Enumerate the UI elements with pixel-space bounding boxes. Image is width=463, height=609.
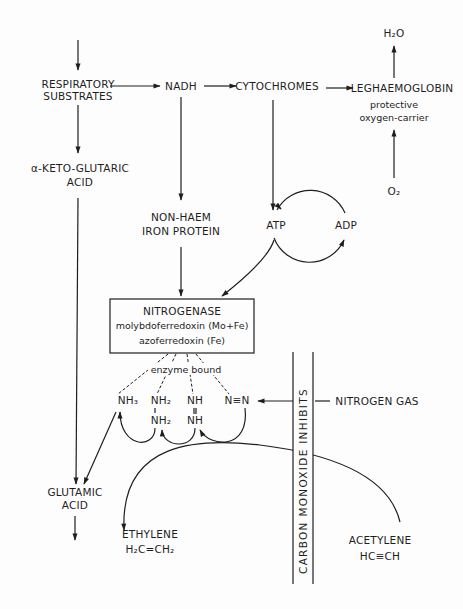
respiratory-substrates-line1: RESPIRATORY xyxy=(41,78,115,90)
nitrogen-gas-label: NITROGEN GAS xyxy=(335,395,418,407)
hydrazine-top: NH₂ xyxy=(151,394,172,406)
alpha-keto-to-glutamic-arrow xyxy=(76,198,78,484)
alpha-keto-line2: ACID xyxy=(67,176,93,188)
leghaemoglobin-label: LEGHAEMOGLOBIN xyxy=(351,82,454,94)
ethylene-name: ETHYLENE xyxy=(122,528,178,540)
nitrogenase-component-2: azoferredoxin (Fe) xyxy=(139,335,225,346)
non-haem-line2: IRON PROTEIN xyxy=(142,225,220,237)
dinitrogen-to-diimide-arrow xyxy=(200,408,245,442)
atp-to-nitrogenase-arrow xyxy=(222,240,274,296)
cytochromes-label: CYTOCHROMES xyxy=(235,80,319,92)
inhibitor-bar-label: CARBON MONOXIDE INHIBITS xyxy=(297,388,309,574)
glutamic-line1: GLUTAMIC xyxy=(47,486,102,498)
diagram-svg: RESPIRATORY SUBSTRATES NADH CYTOCHROMES … xyxy=(0,0,463,609)
nadh-label: NADH xyxy=(165,80,197,92)
acetylene-name: ACETYLENE xyxy=(349,534,412,546)
acetylene-formula: HC≡CH xyxy=(360,550,400,562)
non-haem-line1: NON-HAEM xyxy=(151,211,211,223)
atp-to-adp-arc xyxy=(274,238,344,262)
diimide-to-hydrazine-arrow xyxy=(162,428,195,444)
ammonia-to-glutamic-arrow xyxy=(84,412,116,484)
leghaemoglobin-note-line1: protective xyxy=(370,99,418,110)
glutamic-line2: ACID xyxy=(62,499,88,511)
ammonia-label: NH₃ xyxy=(118,394,139,406)
hydrazine-bottom: NH₂ xyxy=(151,414,172,426)
nitrogen-fixation-diagram: RESPIRATORY SUBSTRATES NADH CYTOCHROMES … xyxy=(0,0,463,609)
leghaemoglobin-note-line2: oxygen-carrier xyxy=(359,112,428,123)
diimide-top: NH xyxy=(187,394,203,406)
enzyme-bound-label: enzyme bound xyxy=(151,364,222,375)
adp-to-atp-arc xyxy=(277,190,345,213)
respiratory-substrates-line2: SUBSTRATES xyxy=(43,90,113,102)
adp-label: ADP xyxy=(335,219,357,231)
atp-label: ATP xyxy=(266,219,286,231)
nitrogenase-component-1: molybdoferredoxin (Mo+Fe) xyxy=(116,320,249,331)
dinitrogen-label: N≡N xyxy=(224,394,249,406)
acetylene-to-ethylene-arrow xyxy=(124,443,400,530)
ethylene-formula: H₂C=CH₂ xyxy=(125,543,174,555)
water-label: H₂O xyxy=(384,27,405,39)
oxygen-label: O₂ xyxy=(388,185,401,197)
diimide-bottom: NH xyxy=(187,414,203,426)
nitrogenase-title: NITROGENASE xyxy=(143,305,221,317)
alpha-keto-line1: α-KETO-GLUTARIC xyxy=(31,162,129,174)
